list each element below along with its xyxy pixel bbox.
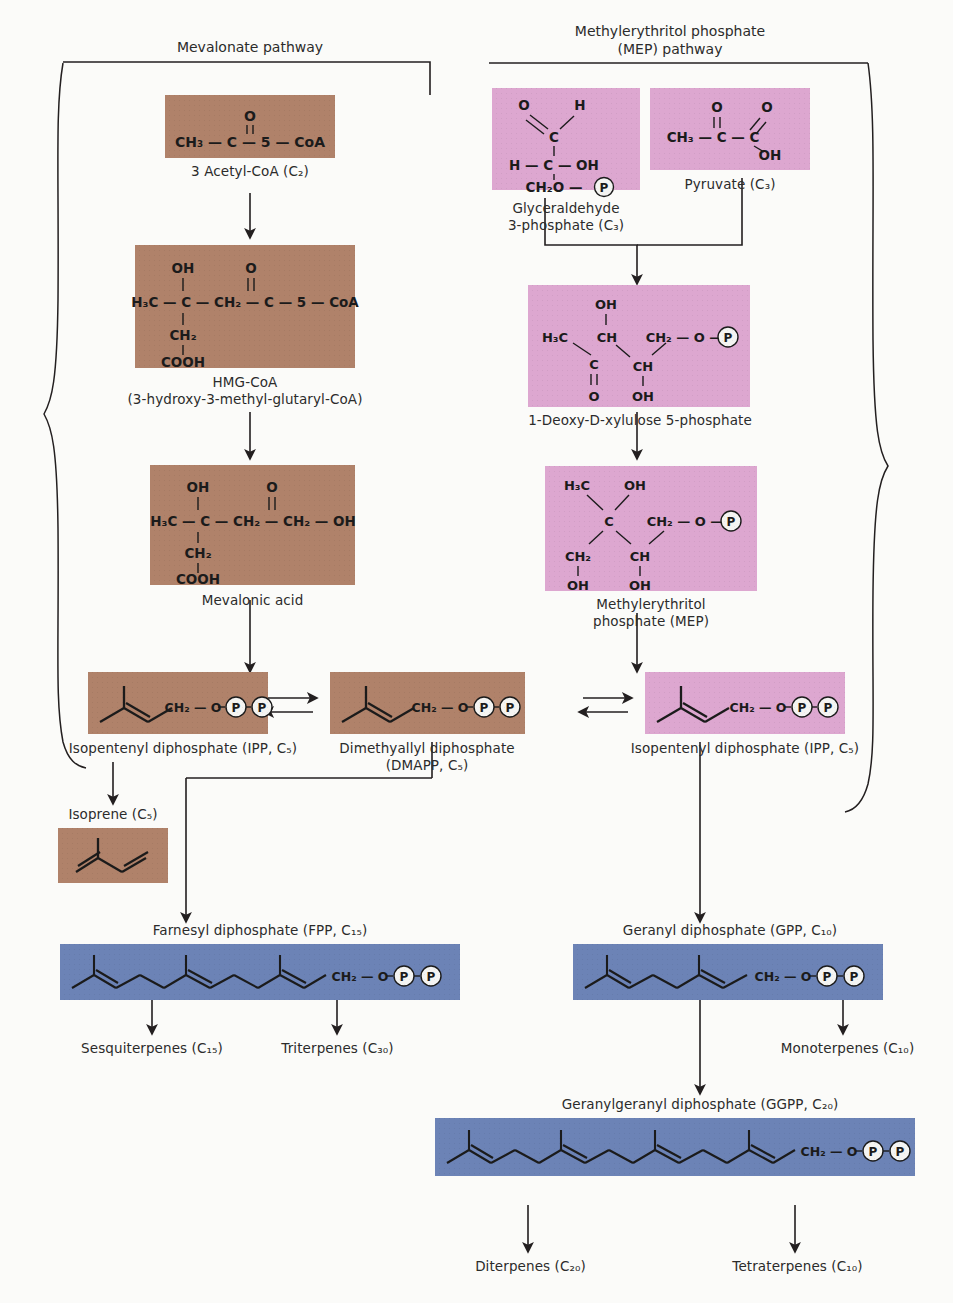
svg-text:COOH: COOH <box>176 571 220 587</box>
mevalonic-acid-label: Mevalonic acid <box>160 592 345 608</box>
hmg-coa-label-line1: HMG-CoA <box>145 374 345 390</box>
svg-text:CH₂ — O: CH₂ — O <box>165 700 222 715</box>
hmg-coa-label-line2: (3-hydroxy-3-methyl-glutaryl-CoA) <box>115 391 375 407</box>
svg-text:H: H <box>574 97 585 113</box>
svg-text:CH₂O —: CH₂O — <box>526 179 583 195</box>
svg-text:O: O <box>761 99 772 115</box>
acetyl-coa-box: O CH₃ — C — 5 — CoA <box>165 95 335 158</box>
mep-label-line2: phosphate (MEP) <box>561 613 741 629</box>
pyruvate-label: Pyruvate (C₃) <box>650 176 810 192</box>
svg-text:O: O <box>266 479 277 495</box>
svg-text:P: P <box>400 970 409 984</box>
svg-text:CH₂ — O: CH₂ — O <box>730 700 787 715</box>
svg-text:P: P <box>232 701 241 715</box>
ipp-right-label: Isopentenyl diphosphate (IPP, C₅) <box>620 740 870 756</box>
dxp-label: 1-Deoxy-D-xylulose 5-phosphate <box>490 412 790 428</box>
svg-text:P: P <box>850 970 859 984</box>
svg-text:OH: OH <box>567 578 589 593</box>
pyruvate-box: O O CH₃ — C — C OH <box>650 88 810 170</box>
ggpp-label: Geranylgeranyl diphosphate (GGPP, C₂₀) <box>530 1096 870 1112</box>
svg-text:CH₂ — O: CH₂ — O <box>801 1144 858 1159</box>
svg-text:O: O <box>245 260 256 276</box>
mep-title-line1: Methylerythritol phosphate <box>575 23 765 39</box>
svg-text:P: P <box>600 181 609 195</box>
mep-pathway-title: Methylerythritol phosphate (MEP) pathway <box>540 22 800 58</box>
svg-text:C: C <box>549 129 559 145</box>
dxp-box: OH H₃C CH C O CH OH CH₂ — O — P <box>528 285 750 407</box>
svg-text:P: P <box>896 1145 905 1159</box>
svg-text:CH₂ — O: CH₂ — O <box>412 700 469 715</box>
fpp-label: Farnesyl diphosphate (FPP, C₁₅) <box>110 922 410 938</box>
fpp-box: CH₂ — O P P <box>60 944 460 1000</box>
svg-text:P: P <box>427 970 436 984</box>
ggpp-box: CH₂ — O P P <box>435 1118 915 1176</box>
gpp-box: CH₂ — O P P <box>573 944 883 1000</box>
svg-text:CH₂: CH₂ <box>184 545 211 561</box>
svg-text:OH: OH <box>595 297 617 312</box>
isoprene-label: Isoprene (C₅) <box>48 806 178 822</box>
svg-text:O: O <box>518 97 529 113</box>
svg-text:OH: OH <box>187 479 210 495</box>
svg-text:P: P <box>258 701 267 715</box>
svg-text:H₃C: H₃C <box>564 478 590 493</box>
svg-text:OH: OH <box>632 389 654 404</box>
svg-text:H₃C — C — CH₂ — CH₂ — OH: H₃C — C — CH₂ — CH₂ — OH <box>150 513 356 529</box>
svg-text:CH: CH <box>633 359 653 374</box>
ipp-right-box: CH₂ — O P P <box>645 672 845 734</box>
svg-text:CH₂: CH₂ <box>169 327 196 343</box>
sesquiterpenes-label: Sesquiterpenes (C₁₅) <box>42 1040 262 1056</box>
tetraterpenes-label: Tetraterpenes (C₁₀) <box>700 1258 895 1274</box>
svg-text:CH: CH <box>597 330 617 345</box>
g3p-label-line1: Glyceraldehyde <box>476 200 656 216</box>
g3p-label-line2: 3-phosphate (C₃) <box>476 217 656 233</box>
mep-box: H₃C OH C CH₂ OH CH OH CH₂ — O — P <box>545 466 757 591</box>
svg-text:H₃C: H₃C <box>542 330 568 345</box>
pathway-figure: Mevalonate pathway Methylerythritol phos… <box>0 0 953 1303</box>
svg-text:O: O <box>244 108 256 124</box>
svg-text:C: C <box>604 514 614 529</box>
svg-text:H — C — OH: H — C — OH <box>509 157 599 173</box>
ipp-left-label: Isopentenyl diphosphate (IPP, C₅) <box>58 740 308 756</box>
svg-text:CH₂: CH₂ <box>565 549 591 564</box>
triterpenes-label: Triterpenes (C₃₀) <box>250 1040 425 1056</box>
mep-label-line1: Methylerythritol <box>561 596 741 612</box>
svg-text:CH₂ — O —: CH₂ — O — <box>646 330 723 345</box>
hmg-coa-box: OH O H₃C — C — CH₂ — C — 5 — CoA CH₂ COO… <box>135 245 355 368</box>
svg-text:H₃C — C — CH₂ — C — 5 — CoA: H₃C — C — CH₂ — C — 5 — CoA <box>131 294 359 310</box>
svg-text:CH₂ — O: CH₂ — O <box>332 969 389 984</box>
dmapp-label-line2: (DMAPP, C₅) <box>312 757 542 773</box>
svg-text:O: O <box>711 99 722 115</box>
mevalonate-pathway-title: Mevalonate pathway <box>120 38 380 56</box>
diterpenes-label: Diterpenes (C₂₀) <box>448 1258 613 1274</box>
mevalonic-acid-box: OH O H₃C — C — CH₂ — CH₂ — OH CH₂ COOH <box>150 465 355 585</box>
svg-text:P: P <box>798 701 807 715</box>
isoprene-box <box>58 828 168 883</box>
ipp-left-box: CH₂ — O P P <box>88 672 268 734</box>
svg-text:CH: CH <box>630 549 650 564</box>
mep-title-line2: (MEP) pathway <box>618 41 723 57</box>
svg-text:P: P <box>823 970 832 984</box>
svg-text:COOH: COOH <box>161 354 205 370</box>
svg-text:O: O <box>588 389 599 404</box>
gpp-label: Geranyl diphosphate (GPP, C₁₀) <box>590 922 870 938</box>
svg-text:P: P <box>724 331 733 345</box>
svg-text:OH: OH <box>624 478 646 493</box>
svg-text:P: P <box>824 701 833 715</box>
svg-text:CH₂ — O: CH₂ — O <box>755 969 812 984</box>
svg-text:OH: OH <box>172 260 195 276</box>
svg-text:OH: OH <box>629 578 651 593</box>
monoterpenes-label: Monoterpenes (C₁₀) <box>755 1040 940 1056</box>
acetyl-coa-label: 3 Acetyl-CoA (C₂) <box>150 163 350 179</box>
svg-text:P: P <box>727 515 736 529</box>
svg-text:P: P <box>869 1145 878 1159</box>
svg-text:C: C <box>589 357 599 372</box>
dmapp-label-line1: Dimethyallyl diphosphate <box>312 740 542 756</box>
svg-text:OH: OH <box>759 147 782 163</box>
dmapp-box: CH₂ — O P P <box>330 672 525 734</box>
svg-text:P: P <box>480 701 489 715</box>
svg-text:CH₃ — C — C: CH₃ — C — C <box>667 129 760 145</box>
g3p-box: O H C H — C — OH CH₂O — P <box>492 88 640 190</box>
svg-text:CH₃ — C — 5 — CoA: CH₃ — C — 5 — CoA <box>175 134 325 150</box>
svg-text:P: P <box>506 701 515 715</box>
svg-text:CH₂ — O —: CH₂ — O — <box>647 514 724 529</box>
